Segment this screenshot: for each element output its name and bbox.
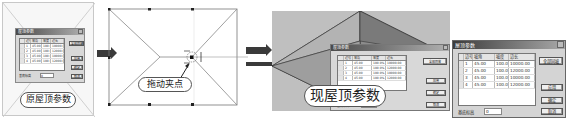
cancel-button[interactable]: 取消 <box>71 74 83 79</box>
table-row[interactable]: 245.00100.0%12000.00 <box>459 68 535 75</box>
flow-arrow-2 <box>246 47 266 54</box>
roof-params-dialog-original: 屋顶参数 边号 坡角 坡度 边长 145.00100.0%10000.00 24… <box>15 28 85 83</box>
cancel-button[interactable]: 取消 <box>426 102 446 108</box>
apply-button[interactable]: 应用 <box>71 56 83 61</box>
elevation-label: 基底标高 <box>458 109 474 115</box>
apply-button[interactable]: 应用 <box>426 78 446 84</box>
all-same-slope-button[interactable]: 全部同坡 <box>539 57 563 65</box>
dialog-title-bar: 屋顶参数 <box>331 45 449 51</box>
close-icon[interactable] <box>78 29 83 34</box>
current-roof-3d-panel: 屋顶参数 边号 坡角 坡度 边长 145.00100.0%10000.00 24… <box>272 11 450 111</box>
drag-grip-panel: 拖动夹点 <box>108 8 248 110</box>
roof-params-dialog-large: 屋顶参数 边号 坡角 坡度 边长 145.00100.0%10000.00 24… <box>452 40 566 118</box>
roof-plan-drawing <box>108 8 248 110</box>
cancel-button[interactable]: 取消 <box>541 108 563 115</box>
apply-button[interactable]: 应用 <box>541 84 563 91</box>
caption-drag-grip: 拖动夹点 <box>138 77 192 92</box>
ok-button[interactable]: 确定 <box>426 90 446 96</box>
elevation-input[interactable]: 0 <box>484 108 502 115</box>
table-row[interactable]: 445.00100.0%12000.00 <box>338 76 406 81</box>
edge-table: 边号 坡角 坡度 边长 145.00100.0%10000.00 245.001… <box>19 38 65 71</box>
elevation-input[interactable]: 0 <box>40 73 54 78</box>
all-same-slope-button[interactable]: 全部同坡 <box>423 58 447 65</box>
close-icon[interactable] <box>557 41 564 48</box>
dimension-bar <box>246 62 272 66</box>
dialog-title-bar: 屋顶参数 <box>16 29 84 35</box>
elevation-label: 基底标高 <box>19 74 31 78</box>
close-icon[interactable] <box>443 45 448 50</box>
original-roof-panel: 屋顶参数 边号 坡角 坡度 边长 145.00100.0%10000.00 24… <box>2 2 94 116</box>
caption-original-roof: 原屋顶参数 <box>20 92 76 108</box>
table-header: 边号 坡角 坡度 边长 <box>459 54 535 61</box>
caption-current-roof: 现屋顶参数 <box>304 85 386 107</box>
edge-table: 边号 坡角 坡度 边长 145.00100.0%10000.00 245.001… <box>458 53 536 106</box>
table-row[interactable]: 445.00100.0%12000.00 <box>459 82 535 89</box>
table-row[interactable]: 445.00100.0%12000.00 <box>20 59 64 64</box>
table-row[interactable]: 345.00100.0%10000.00 <box>459 75 535 82</box>
table-row[interactable]: 145.00100.0%10000.00 <box>459 61 535 68</box>
all-same-slope-button[interactable]: 全部同坡 <box>69 41 84 46</box>
dialog-title-bar: 屋顶参数 <box>453 41 565 49</box>
ok-button[interactable]: 确定 <box>71 65 83 70</box>
ok-button[interactable]: 确定 <box>541 97 563 104</box>
